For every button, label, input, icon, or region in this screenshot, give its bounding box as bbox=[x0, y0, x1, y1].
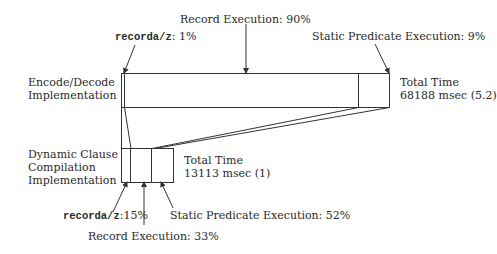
recorda-bottom-label: recorda/z:15% bbox=[63, 209, 148, 223]
recorda-top-code: recorda/z bbox=[115, 31, 172, 43]
projection-line bbox=[155, 108, 390, 149]
dynamic-clause-bar bbox=[122, 149, 174, 183]
encode-decode-bar bbox=[122, 74, 390, 108]
encode-decode-total: Total Time 68188 msec (5.2) bbox=[400, 76, 497, 102]
arrow-static-pred-top bbox=[375, 44, 389, 73]
projection-line bbox=[152, 108, 359, 149]
record-execution-top-label: Record Execution: 90% bbox=[180, 13, 311, 26]
encode-decode-total-line2: 68188 msec (5.2) bbox=[400, 89, 497, 102]
record-execution-bottom-label: Record Execution: 33% bbox=[88, 230, 219, 243]
recorda-bottom-code: recorda/z bbox=[63, 210, 120, 222]
dynamic-clause-line1: Dynamic Clause bbox=[28, 148, 118, 161]
recorda-bottom-percent: :15% bbox=[120, 209, 148, 222]
encode-decode-total-line1: Total Time bbox=[400, 76, 497, 89]
dynamic-clause-total: Total Time 13113 msec (1) bbox=[184, 154, 270, 180]
recorda-top-label: recorda/z: 1% bbox=[115, 30, 196, 44]
encode-decode-row-label: Encode/Decode Implementation bbox=[28, 76, 117, 102]
dynamic-clause-line2: Compilation bbox=[28, 161, 118, 174]
arrow-static-pred-bottom bbox=[161, 182, 173, 208]
projection-line bbox=[125, 108, 132, 149]
static-predicate-top-label: Static Predicate Execution: 9% bbox=[312, 30, 485, 43]
dynamic-clause-row-label: Dynamic Clause Compilation Implementatio… bbox=[28, 148, 118, 187]
static-predicate-bottom-label: Static Predicate Execution: 52% bbox=[170, 209, 350, 222]
encode-decode-line2: Implementation bbox=[28, 89, 117, 102]
encode-decode-line1: Encode/Decode bbox=[28, 76, 117, 89]
dynamic-clause-total-line1: Total Time bbox=[184, 154, 270, 167]
dynamic-clause-total-line2: 13113 msec (1) bbox=[184, 167, 270, 180]
recorda-top-percent: : 1% bbox=[172, 30, 197, 43]
dynamic-clause-line3: Implementation bbox=[28, 174, 118, 187]
arrow-recorda-top bbox=[124, 45, 135, 73]
